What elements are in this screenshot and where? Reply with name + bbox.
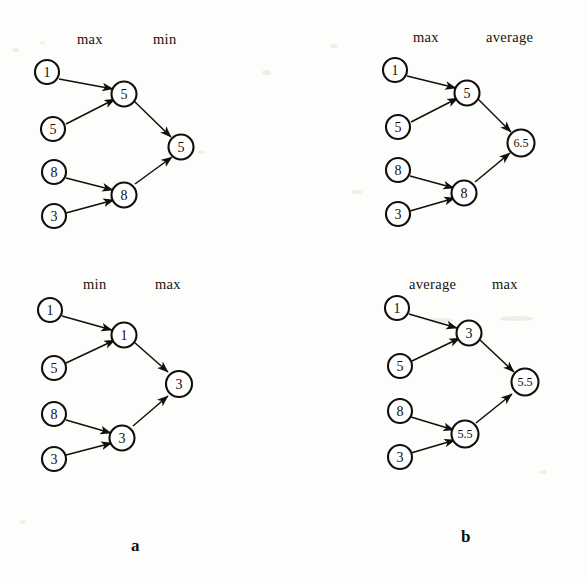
node-leaf-4-value: 3 xyxy=(51,452,58,467)
edge-leaf2-to-internal1 xyxy=(66,99,115,124)
node-leaf-2-value: 5 xyxy=(51,361,58,376)
node-internal-1-value: 3 xyxy=(466,326,473,341)
node-leaf-4: 3 xyxy=(386,202,410,226)
node-leaf-4: 3 xyxy=(42,204,66,228)
node-leaf-1: 1 xyxy=(38,298,62,322)
scan-speck xyxy=(20,520,26,524)
edge-internal1-to-root xyxy=(134,101,171,137)
node-root: 5.5 xyxy=(512,369,539,396)
edge-internal2-to-root xyxy=(475,153,510,182)
edge-internal1-to-root xyxy=(478,99,511,132)
node-internal-2-value: 3 xyxy=(119,431,126,446)
node-leaf-2-value: 5 xyxy=(395,120,402,135)
panel-a-bottom-tree: 1 5 8 3 1 3 xyxy=(0,260,290,510)
node-leaf-3: 8 xyxy=(388,399,412,423)
node-leaf-2: 5 xyxy=(386,115,410,139)
node-root-value: 3 xyxy=(176,377,183,392)
node-internal-1-value: 1 xyxy=(121,328,128,343)
node-root-value: 6.5 xyxy=(513,136,528,150)
panel-a-top-tree: 1 5 8 3 5 8 xyxy=(0,0,290,260)
edge-leaf2-to-internal1 xyxy=(412,338,460,361)
node-root: 5 xyxy=(169,135,194,160)
node-root: 6.5 xyxy=(508,130,535,157)
edge-leaf3-to-internal2 xyxy=(411,417,454,430)
node-leaf-3-value: 8 xyxy=(51,165,58,180)
node-internal-2-value: 8 xyxy=(121,188,128,203)
node-leaf-1-value: 1 xyxy=(392,63,399,78)
panel-b-bottom: average max 1 5 8 xyxy=(290,260,587,510)
node-leaf-3-value: 8 xyxy=(395,163,402,178)
edge-leaf3-to-internal2 xyxy=(66,178,113,190)
node-leaf-1: 1 xyxy=(35,60,59,84)
edge-leaf3-to-internal2 xyxy=(410,176,454,188)
node-leaf-1-value: 1 xyxy=(44,65,51,80)
edge-leaf4-to-internal2 xyxy=(411,440,455,453)
node-leaf-3: 8 xyxy=(386,158,410,182)
node-internal-2: 5.5 xyxy=(452,421,479,448)
edge-internal1-to-root xyxy=(480,340,514,372)
node-leaf-2: 5 xyxy=(388,354,412,378)
edge-leaf4-to-internal2 xyxy=(66,443,112,455)
node-leaf-4: 3 xyxy=(388,445,412,469)
node-leaf-1: 1 xyxy=(385,296,409,320)
node-leaf-1: 1 xyxy=(383,58,407,82)
node-leaf-2-value: 5 xyxy=(397,359,404,374)
panel-b-bottom-tree: 1 5 8 3 3 5.5 xyxy=(290,260,587,510)
node-leaf-2: 5 xyxy=(41,117,65,141)
panel-a-top: max min 1 5 xyxy=(0,0,290,260)
edge-leaf2-to-internal1 xyxy=(66,340,115,363)
node-internal-2-value: 8 xyxy=(461,186,468,201)
node-leaf-1-value: 1 xyxy=(394,301,401,316)
node-internal-1: 5 xyxy=(112,82,137,107)
node-root-value: 5 xyxy=(178,140,185,155)
node-leaf-3: 8 xyxy=(42,160,66,184)
edge-leaf1-to-internal1 xyxy=(407,76,456,88)
node-internal-1: 1 xyxy=(112,323,137,348)
node-internal-1: 5 xyxy=(455,81,480,106)
node-leaf-4-value: 3 xyxy=(395,207,402,222)
edge-internal2-to-root xyxy=(135,157,172,184)
figure-caption-b: b xyxy=(461,527,470,547)
node-internal-1-value: 5 xyxy=(121,87,128,102)
node-root-value: 5.5 xyxy=(517,375,532,389)
edge-internal1-to-root xyxy=(134,342,168,372)
edge-leaf4-to-internal2 xyxy=(410,198,455,211)
node-internal-2: 3 xyxy=(110,426,135,451)
edge-leaf2-to-internal1 xyxy=(411,98,458,122)
node-leaf-4-value: 3 xyxy=(51,209,58,224)
edge-leaf4-to-internal2 xyxy=(66,200,114,213)
node-leaf-2-value: 5 xyxy=(50,122,57,137)
node-internal-1: 3 xyxy=(457,321,482,346)
node-leaf-3-value: 8 xyxy=(397,404,404,419)
node-leaf-3: 8 xyxy=(42,402,66,426)
node-internal-2: 8 xyxy=(452,181,477,206)
node-leaf-2: 5 xyxy=(42,356,66,380)
panel-b-top-tree: 1 5 8 3 5 8 xyxy=(290,0,587,260)
panel-b-top: max average 1 5 8 xyxy=(290,0,587,260)
node-leaf-4-value: 3 xyxy=(397,450,404,465)
node-leaf-1-value: 1 xyxy=(47,303,54,318)
edge-internal2-to-root xyxy=(476,394,512,423)
node-leaf-3-value: 8 xyxy=(51,407,58,422)
node-internal-1-value: 5 xyxy=(464,86,471,101)
edge-leaf1-to-internal1 xyxy=(409,314,457,328)
edge-leaf3-to-internal2 xyxy=(66,420,111,433)
edge-leaf1-to-internal1 xyxy=(59,79,113,89)
node-leaf-4: 3 xyxy=(42,447,66,471)
node-internal-2-value: 5.5 xyxy=(457,427,472,441)
panel-a-bottom: min max 1 5 8 xyxy=(0,260,290,510)
figure-canvas: max min 1 5 xyxy=(0,0,587,578)
figure-caption-a: a xyxy=(131,536,140,556)
edge-internal2-to-root xyxy=(133,396,168,426)
node-internal-2: 8 xyxy=(112,183,137,208)
node-root: 3 xyxy=(166,371,192,397)
edge-leaf1-to-internal1 xyxy=(62,316,112,330)
